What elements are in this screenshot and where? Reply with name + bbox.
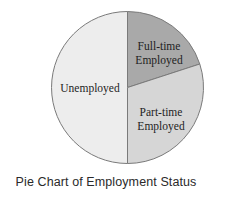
pie-chart: Full-time Employed Part-time Employed Un… [0, 0, 233, 198]
label-full-time-line2: Employed [135, 54, 183, 67]
chart-title: Pie Chart of Employment Status [0, 175, 212, 189]
label-unemployed: Unemployed [60, 82, 120, 95]
label-part-time-line1: Part-time [140, 106, 183, 118]
label-full-time-line1: Full-time [138, 40, 181, 52]
label-part-time-line2: Employed [137, 120, 185, 133]
